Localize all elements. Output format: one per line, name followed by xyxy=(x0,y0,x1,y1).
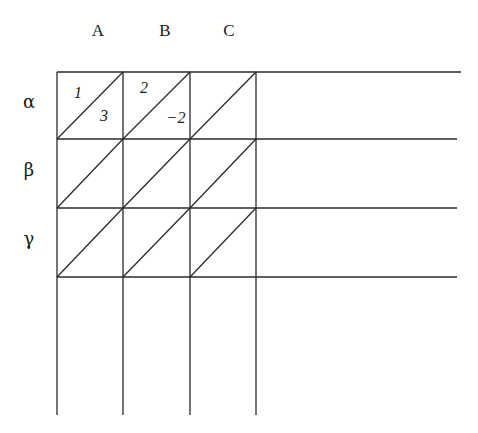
cell-a-alpha-upper-value: 1 xyxy=(74,84,82,101)
cell-diagonal-line xyxy=(190,72,256,139)
cell-b-alpha-lower-value: −2 xyxy=(167,109,186,126)
cell-b-alpha-upper-value: 2 xyxy=(140,79,148,96)
cell-diagonal-line xyxy=(190,139,256,208)
labels: A B C α β γ 1 3 2 −2 xyxy=(23,21,235,249)
cell-diagonal-line xyxy=(57,72,123,139)
row-header-beta: β xyxy=(24,159,34,180)
column-header-b: B xyxy=(159,21,170,40)
cell-diagonal-line xyxy=(123,139,190,208)
column-header-a: A xyxy=(92,21,105,40)
cell-diagonal-line xyxy=(190,208,256,277)
cell-diagonal-line xyxy=(57,208,123,277)
grid-lines xyxy=(57,72,461,415)
payoff-grid-diagram: A B C α β γ 1 3 2 −2 xyxy=(0,0,478,433)
row-header-gamma: γ xyxy=(24,228,35,249)
cell-diagonals xyxy=(57,72,256,277)
cell-diagonal-line xyxy=(57,139,123,208)
cell-diagonal-line xyxy=(123,208,190,277)
column-header-c: C xyxy=(223,21,234,40)
cell-diagonal-line xyxy=(123,72,190,139)
cell-a-alpha-lower-value: 3 xyxy=(99,107,108,124)
row-header-alpha: α xyxy=(23,91,35,112)
